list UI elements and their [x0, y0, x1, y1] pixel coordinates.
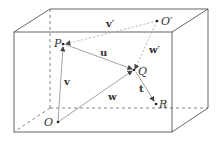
- label-u: u: [100, 47, 107, 58]
- point-Q: [133, 69, 136, 72]
- point-R: [155, 103, 158, 106]
- point-O: [57, 121, 60, 124]
- vector-u: [64, 44, 132, 69]
- label-v: v: [63, 76, 71, 87]
- label-v-prime: v′: [105, 18, 115, 29]
- label-w: w: [107, 91, 117, 102]
- vector-v: [58, 47, 63, 122]
- box-vector-diagram: O O′ P Q R v w u t v′ w′: [0, 0, 219, 146]
- label-Q: Q: [138, 65, 147, 78]
- label-R: R: [158, 98, 167, 111]
- label-O-prime: O′: [161, 15, 173, 28]
- point-O-prime: [156, 20, 159, 23]
- point-P: [62, 43, 65, 46]
- label-t: t: [139, 83, 144, 94]
- label-O: O: [44, 116, 53, 129]
- label-w-prime: w′: [148, 44, 161, 55]
- label-P: P: [53, 37, 62, 50]
